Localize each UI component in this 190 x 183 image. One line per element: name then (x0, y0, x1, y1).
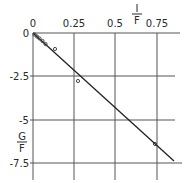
y-tick-0: 0 (23, 28, 29, 39)
grid (30, 33, 182, 180)
y-label-numerator: G (18, 131, 26, 142)
y-label-denominator: F (19, 143, 25, 154)
x-tick-0: 0 (30, 18, 36, 29)
y-axis-label: G F (17, 131, 27, 154)
y-tick-7.5: -7.5 (9, 158, 29, 169)
y-tick-5: -5 (19, 115, 29, 126)
y-tick-2.5: -2.5 (9, 71, 29, 82)
x-label-denominator: F (134, 15, 140, 26)
fit-line (33, 33, 174, 161)
x-label-numerator: I (136, 3, 139, 14)
x-tick-0.5: 0.5 (107, 18, 123, 29)
data-point (53, 47, 56, 50)
x-tick-0.25: 0.25 (63, 18, 85, 29)
x-tick-0.75: 0.75 (146, 18, 168, 29)
x-axis-label: I F (132, 3, 142, 26)
data-point (76, 79, 79, 82)
chart: 0 0.25 0.5 0.75 0 -2.5 -5 -7.5 I F G F (0, 0, 190, 183)
